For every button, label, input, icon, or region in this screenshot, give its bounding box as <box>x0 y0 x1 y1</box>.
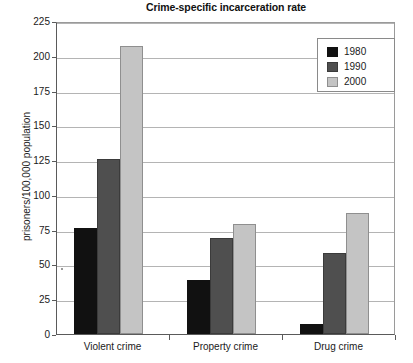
y-axis-tick-label: 75 <box>4 225 50 236</box>
legend: 1980 1990 2000 <box>317 38 395 92</box>
y-axis-tick-mark <box>52 335 56 336</box>
x-axis-tick-mark <box>282 335 283 340</box>
y-axis-title: prisoners/100,000 population <box>21 67 32 287</box>
bar <box>300 324 323 334</box>
x-axis-category-label: Property crime <box>169 341 282 352</box>
legend-swatch-icon <box>327 77 338 87</box>
x-axis-tick-mark <box>169 335 170 340</box>
bar-chart: Crime-specific incarceration rate prison… <box>0 0 413 363</box>
legend-item: 1990 <box>327 59 394 74</box>
legend-label: 1990 <box>344 62 366 72</box>
y-axis-tick-label: 125 <box>4 155 50 166</box>
legend-item: 2000 <box>327 74 394 89</box>
bar <box>74 228 97 334</box>
x-axis-category-label: Drug crime <box>282 341 395 352</box>
y-axis-tick-label: 100 <box>4 190 50 201</box>
y-axis-tick-label: 150 <box>4 120 50 131</box>
gridline <box>57 23 394 24</box>
scan-artifact <box>61 268 63 270</box>
legend-label: 1980 <box>344 47 366 57</box>
legend-item: 1980 <box>327 44 394 59</box>
y-axis-tick-label: 175 <box>4 86 50 97</box>
bar <box>323 253 346 334</box>
y-axis-tick-label: 0 <box>4 329 50 340</box>
x-axis-category-label: Violent crime <box>56 341 169 352</box>
gridline <box>57 127 394 128</box>
legend-swatch-icon <box>327 62 338 72</box>
bar <box>97 159 120 334</box>
y-axis-tick-label: 200 <box>4 51 50 62</box>
x-axis-tick-mark <box>395 335 396 340</box>
y-axis-tick-label: 225 <box>4 16 50 27</box>
bar <box>233 224 256 334</box>
y-axis-tick-label: 50 <box>4 259 50 270</box>
bar <box>346 213 369 334</box>
y-axis-tick-label: 25 <box>4 294 50 305</box>
bar <box>210 238 233 334</box>
bar <box>120 46 143 334</box>
legend-label: 2000 <box>344 77 366 87</box>
gridline <box>57 93 394 94</box>
legend-swatch-icon <box>327 47 338 57</box>
bar <box>187 280 210 334</box>
chart-title: Crime-specific incarceration rate <box>56 1 396 13</box>
